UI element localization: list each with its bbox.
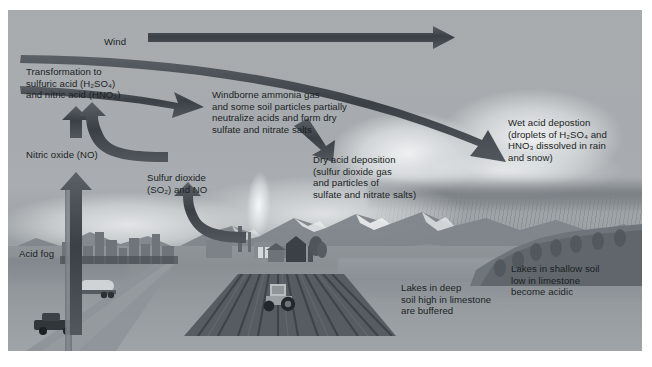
label-sulfur-dioxide: Sulfur dioxide (SO₂) and NO [147, 172, 207, 195]
label-lakes-deep-soil: Lakes in deep soil high in limestone are… [401, 282, 491, 317]
nitric-oxide-lower-arrow [60, 172, 92, 335]
label-nitric-oxide: Nitric oxide (NO) [26, 149, 98, 161]
label-transformation: Transformation to sulfuric acid (H₂SO₄) … [26, 66, 121, 101]
label-lakes-shallow-soil: Lakes in shallow soil low in limestone b… [511, 263, 600, 298]
wind-arrow [148, 26, 455, 49]
label-dry-acid-deposition: Dry acid deposition (sulfur dioxide gas … [313, 154, 416, 200]
label-wind: Wind [104, 36, 126, 48]
label-wet-acid-deposition: Wet acid depostion (droplets of H₂SO₄ an… [508, 117, 607, 163]
acid-deposition-figure: Wind Transformation to sulfuric acid (H₂… [8, 10, 642, 351]
label-windborne-ammonia: Windborne ammonia gas and some soil part… [212, 89, 347, 135]
label-acid-fog: Acid fog [19, 248, 54, 260]
